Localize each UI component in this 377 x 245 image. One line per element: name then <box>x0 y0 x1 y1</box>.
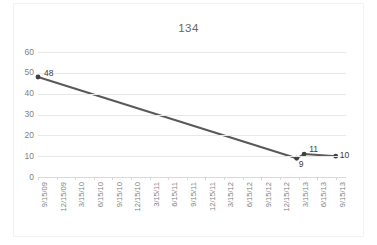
gridline <box>38 156 346 157</box>
gridline <box>38 52 346 53</box>
chart-title: 134 <box>0 22 377 34</box>
y-axis-tick-label: 30 <box>10 110 34 119</box>
x-axis-tick-mark <box>317 177 318 180</box>
x-axis-tick-mark <box>187 177 188 180</box>
y-axis-tick-label: 20 <box>10 131 34 140</box>
x-axis-tick-mark <box>150 177 151 180</box>
gridline <box>38 115 346 116</box>
data-point-label: 9 <box>299 160 304 169</box>
x-axis-tick-mark <box>94 177 95 180</box>
x-axis-tick-mark <box>261 177 262 180</box>
y-axis-tick-label: 10 <box>10 152 34 161</box>
x-axis-tick-label: 12/15/11 <box>209 182 217 211</box>
data-point-marker <box>36 75 41 80</box>
x-axis-tick-label: 3/15/11 <box>153 182 161 207</box>
gridline <box>38 73 346 74</box>
x-axis-tick-label: 6/15/10 <box>97 182 105 207</box>
x-axis-tick-mark <box>243 177 244 180</box>
x-axis-tick-label: 9/15/11 <box>190 182 198 207</box>
plot-area <box>38 52 346 177</box>
x-axis-tick-mark <box>168 177 169 180</box>
x-axis-tick-label: 3/15/12 <box>227 182 235 207</box>
data-point-label: 48 <box>44 69 53 78</box>
x-axis-tick-mark <box>336 177 337 180</box>
x-axis-tick-label: 12/15/10 <box>134 182 142 212</box>
x-axis-tick-mark <box>280 177 281 180</box>
data-point-label: 11 <box>309 145 318 154</box>
x-axis-tick-mark <box>131 177 132 180</box>
x-axis-tick-label: 6/15/13 <box>320 182 328 207</box>
x-axis-tick-mark <box>112 177 113 180</box>
x-axis-tick-label: 6/15/12 <box>246 182 254 207</box>
x-axis-tick-mark <box>224 177 225 180</box>
line-chart: 134 0102030405060 9/15/0912/15/093/15/10… <box>0 0 377 245</box>
x-axis-tick-label: 3/15/13 <box>302 182 310 207</box>
x-axis-tick-mark <box>38 177 39 180</box>
y-axis-tick-label: 40 <box>10 89 34 98</box>
data-point-label: 10 <box>340 151 349 160</box>
gridline <box>38 94 346 95</box>
y-axis-labels: 0102030405060 <box>8 52 34 177</box>
y-axis-tick-label: 50 <box>10 68 34 77</box>
x-axis-tick-label: 9/15/12 <box>265 182 273 207</box>
x-axis-tick-label: 9/15/13 <box>339 182 347 207</box>
x-axis-tick-label: 9/15/09 <box>41 182 49 207</box>
x-axis-tick-label: 6/15/11 <box>171 182 179 207</box>
series-polyline <box>38 77 336 158</box>
x-axis-tick-mark <box>205 177 206 180</box>
x-axis-tick-mark <box>57 177 58 180</box>
gridline <box>38 135 346 136</box>
x-axis-line <box>38 177 346 178</box>
x-axis-tick-label: 9/15/10 <box>116 182 124 207</box>
x-axis-tick-label: 12/15/12 <box>283 182 291 212</box>
x-axis-tick-mark <box>75 177 76 180</box>
y-axis-tick-label: 0 <box>10 173 34 182</box>
y-axis-tick-label: 60 <box>10 48 34 57</box>
x-axis-tick-label: 3/15/10 <box>78 182 86 207</box>
x-axis-tick-label: 12/15/09 <box>60 182 68 212</box>
x-axis-tick-mark <box>299 177 300 180</box>
